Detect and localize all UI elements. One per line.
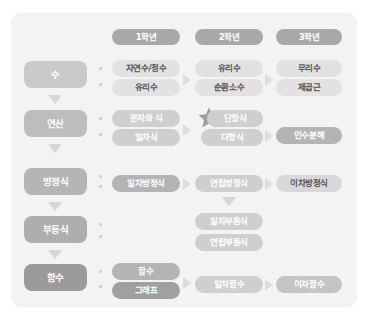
connector-dot xyxy=(99,270,102,273)
connector-dot xyxy=(99,285,102,288)
topic-pill-linear-equation: 일차방정식 xyxy=(112,175,180,192)
topic-pill-square-root: 제곱근 xyxy=(276,79,342,96)
topic-pill-simultaneous-equation: 연립방정식 xyxy=(195,175,263,192)
right-arrow-function-g2-g3 xyxy=(265,279,273,291)
topic-pill-linear-inequality: 일차부등식 xyxy=(195,213,263,230)
right-arrow-equation-g2-g3 xyxy=(265,178,273,190)
topic-pill-monomial: 단항식 xyxy=(207,110,263,127)
topic-pill-natural-integer: 자연수/정수 xyxy=(112,60,180,77)
row-label-operation: 연산 xyxy=(24,110,87,137)
row-label-equation: 방정식 xyxy=(24,168,87,195)
topic-pill-function: 함수 xyxy=(112,263,180,280)
topic-pill-letters-and-expressions: 문자와 식 xyxy=(112,110,180,127)
topic-pill-quadratic-function: 이차함수 xyxy=(276,276,342,293)
topic-pill-rational-g2: 유리수 xyxy=(195,60,263,77)
column-header-grade1: 1학년 xyxy=(112,29,180,45)
row-label-inequality: 부등식 xyxy=(24,216,87,243)
topic-pill-repeating-decimal: 순환소수 xyxy=(195,79,263,96)
connector-dot xyxy=(99,185,102,188)
connector-dot xyxy=(99,175,102,178)
right-arrow-equation-g1-g2 xyxy=(183,178,191,190)
topic-pill-polynomial: 다항식 xyxy=(201,129,263,146)
down-arrow-equation-to-inequality-g2 xyxy=(222,197,236,206)
connector-dot xyxy=(99,67,102,70)
topic-pill-linear-function: 일차함수 xyxy=(195,276,263,293)
down-arrow-number-to-operation xyxy=(48,95,62,104)
diagram-board: 1학년 2학년 3학년 수 연산 방정식 부등식 함수 자연수/정수 유리수 유… xyxy=(11,13,357,307)
right-arrow-operation-g2-g3 xyxy=(265,130,273,142)
down-arrow-equation-to-inequality xyxy=(48,202,62,211)
column-header-grade2: 2학년 xyxy=(195,29,263,45)
connector-dot xyxy=(99,117,102,120)
right-arrow-operation-g1-g2 xyxy=(183,124,191,136)
down-arrow-operation-to-equation xyxy=(48,144,62,153)
right-arrow-function-g1-g2 xyxy=(183,277,191,289)
topic-pill-simultaneous-inequality: 연립부등식 xyxy=(195,234,263,251)
connector-dot xyxy=(99,235,102,238)
topic-pill-rational-g1: 유리수 xyxy=(112,79,180,96)
topic-pill-linear-expression: 일차식 xyxy=(112,129,180,146)
down-arrow-inequality-to-function xyxy=(48,250,62,259)
right-arrow-number-g2-g3 xyxy=(265,74,273,86)
topic-pill-irrational: 무리수 xyxy=(276,60,342,77)
topic-pill-quadratic-equation: 이차방정식 xyxy=(276,175,342,192)
row-label-function: 함수 xyxy=(24,264,87,291)
right-arrow-number-g1-g2 xyxy=(183,74,191,86)
column-header-grade3: 3학년 xyxy=(276,29,342,45)
topic-pill-graph: 그래프 xyxy=(112,282,180,299)
connector-dot xyxy=(99,133,102,136)
row-label-number: 수 xyxy=(24,61,87,88)
connector-dot xyxy=(99,83,102,86)
connector-dot xyxy=(99,223,102,226)
topic-pill-factorization: 인수분해 xyxy=(276,127,342,144)
